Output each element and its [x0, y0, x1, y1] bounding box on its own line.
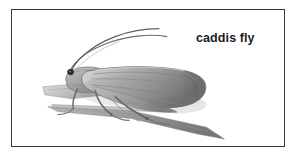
grass-blade-lower — [48, 107, 225, 140]
eye — [67, 69, 74, 75]
figure-root: caddis fly — [0, 0, 295, 159]
figure-caption-label: caddis fly — [196, 32, 255, 45]
figure-frame-border: caddis fly — [11, 9, 285, 147]
